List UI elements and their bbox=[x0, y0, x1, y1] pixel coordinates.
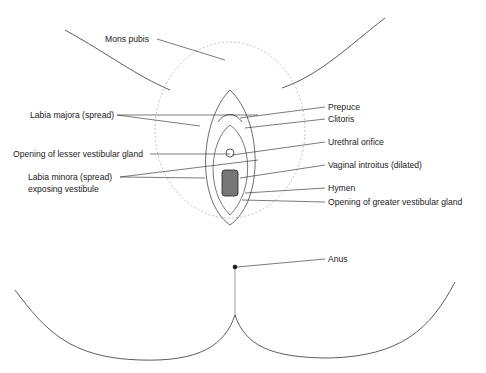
left-buttock-outline bbox=[15, 290, 235, 360]
label-hymen: Hymen bbox=[328, 183, 355, 193]
prepuce-outline bbox=[218, 115, 242, 123]
label-anus: Anus bbox=[328, 254, 348, 264]
label-vaginal-introitus: Vaginal introitus (dilated) bbox=[328, 160, 422, 170]
label-opening-greater-vestibular-gland: Opening of greater vestibular gland bbox=[328, 197, 462, 207]
anus-shape bbox=[233, 265, 237, 269]
anatomical-diagram: Mons pubis Labia majora (spread) Prepuce… bbox=[0, 0, 486, 373]
label-mons-pubis: Mons pubis bbox=[105, 34, 149, 44]
right-buttock-outline bbox=[235, 282, 455, 358]
labia-majora-outline bbox=[206, 90, 256, 225]
label-opening-lesser-vestibular-gland: Opening of lesser vestibular gland bbox=[13, 149, 143, 159]
label-labia-majora: Labia majora (spread) bbox=[30, 110, 114, 120]
urethral-orifice-shape bbox=[226, 149, 234, 157]
right-thigh-outline bbox=[282, 18, 385, 88]
label-prepuce: Prepuce bbox=[328, 102, 360, 112]
vaginal-introitus-shape bbox=[222, 170, 238, 196]
label-urethral-orifice: Urethral orifice bbox=[328, 137, 384, 147]
label-clitoris: Clitoris bbox=[328, 114, 354, 124]
label-labia-minora: Labia minora (spread) bbox=[28, 172, 112, 182]
label-labia-minora-line2: exposing vestibule bbox=[28, 184, 99, 194]
